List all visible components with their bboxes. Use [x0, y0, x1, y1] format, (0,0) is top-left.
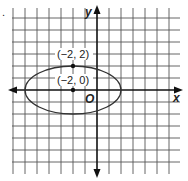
coordinate-plane: . — [0, 0, 188, 181]
y-axis-label: y — [84, 5, 93, 19]
label-point-vertex: (−2, 2) — [57, 48, 89, 60]
label-point-center: (−2, 0) — [57, 74, 89, 86]
y-axis — [94, 5, 101, 178]
arrow-up-icon — [94, 5, 101, 14]
grid-lines — [12, 8, 180, 174]
point-vertex — [71, 64, 75, 68]
x-axis-label: x — [172, 91, 181, 105]
point-center — [71, 88, 75, 92]
arrow-down-icon — [94, 169, 101, 178]
arrow-left-icon — [8, 87, 17, 94]
bullet-marker: . — [2, 6, 5, 18]
origin-label: O — [85, 92, 95, 106]
